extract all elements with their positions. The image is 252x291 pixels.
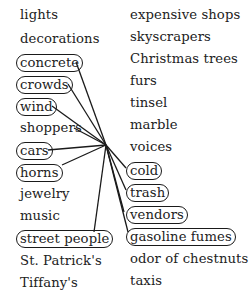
word-lights: lights bbox=[20, 7, 58, 23]
circled-word-street-people: street people bbox=[16, 230, 113, 248]
word-decorations: decorations bbox=[20, 31, 100, 47]
circled-word-cars: cars bbox=[16, 142, 53, 160]
circled-word-crowds: crowds bbox=[16, 76, 73, 94]
circled-word-concrete: concrete bbox=[16, 54, 83, 72]
word-odor-of-chestnuts: odor of chestnuts bbox=[130, 251, 248, 267]
circled-word-cold: cold bbox=[126, 162, 162, 180]
word-shoppers: shoppers bbox=[20, 120, 82, 136]
word-marble: marble bbox=[130, 117, 178, 133]
connector-line-street-people bbox=[94, 145, 106, 232]
word-jewelry: jewelry bbox=[20, 186, 70, 202]
circled-word-horns: horns bbox=[16, 164, 63, 182]
word-skyscrapers: skyscrapers bbox=[130, 29, 211, 45]
word-voices: voices bbox=[130, 139, 172, 155]
word-music: music bbox=[20, 208, 60, 224]
word-tinsel: tinsel bbox=[130, 95, 167, 111]
word-christmas-trees: Christmas trees bbox=[130, 51, 238, 67]
word-st-patrick-s: St. Patrick's bbox=[20, 253, 102, 269]
word-tiffany-s: Tiffany's bbox=[20, 275, 78, 291]
word-taxis: taxis bbox=[130, 273, 162, 289]
circled-word-gasoline-fumes: gasoline fumes bbox=[126, 228, 236, 246]
circled-word-vendors: vendors bbox=[126, 206, 188, 224]
word-furs: furs bbox=[130, 73, 157, 89]
word-expensive-shops: expensive shops bbox=[130, 7, 240, 23]
circled-word-trash: trash bbox=[126, 184, 169, 202]
circled-word-wind: wind bbox=[16, 98, 57, 116]
